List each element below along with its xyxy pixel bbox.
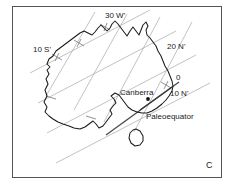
figure-panel: 30 W' 20 N' 10 S' 0 10 N' Canberra Paleo… — [0, 0, 233, 191]
graticule-label-30w: 30 W' — [105, 12, 125, 20]
graticule-label-0: 0 — [176, 74, 180, 82]
graticule-label-10s: 10 S' — [33, 46, 51, 54]
graticule-label-20n: 20 N' — [167, 43, 185, 51]
canberra-city-dot — [146, 97, 150, 101]
panel-letter: C — [206, 160, 213, 170]
canberra-label: Canberra — [120, 89, 153, 97]
graticule-label-10n: 10 N' — [170, 90, 188, 98]
map-canvas — [0, 0, 233, 191]
paleoequator-label: Paleoequator — [146, 113, 194, 121]
